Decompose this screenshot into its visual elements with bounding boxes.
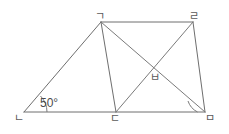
angle-arc-mieum bbox=[188, 101, 198, 112]
segment-g-m bbox=[101, 22, 205, 112]
angle-label-nieun: 50° bbox=[40, 97, 58, 109]
vertex-label-bieup: ㅂ bbox=[150, 72, 160, 83]
segment-g-d bbox=[101, 22, 116, 112]
segment-n-g bbox=[24, 22, 101, 112]
segment-d-r bbox=[116, 22, 193, 112]
vertex-label-giyeok: ㄱ bbox=[95, 11, 105, 22]
vertex-label-digeut: ㄷ bbox=[110, 113, 120, 124]
vertex-label-nieun: ㄴ bbox=[14, 113, 24, 124]
vertex-label-rieul: ㄹ bbox=[189, 11, 199, 22]
geometry-figure: ㄱ ㄹ ㄴ ㄷ ㅁ ㅂ 50° bbox=[0, 0, 229, 134]
vertex-label-mieum: ㅁ bbox=[205, 113, 215, 124]
segment-r-m bbox=[193, 22, 205, 112]
